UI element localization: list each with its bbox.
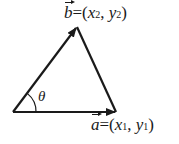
vector-a-name: a	[91, 115, 100, 135]
vector-b-name: b	[64, 3, 73, 23]
vector-b-label: b=(x2, y2)	[64, 3, 127, 23]
triangle-side-ab	[77, 27, 116, 112]
angle-arc	[28, 94, 37, 112]
vector-a-label: a=(x1, y1)	[91, 115, 154, 135]
angle-theta-label: θ	[38, 88, 45, 105]
vector-triangle-diagram: b=(x2, y2) θ a=(x1, y1)	[0, 0, 179, 144]
